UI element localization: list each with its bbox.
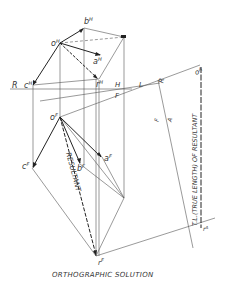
label-rF: rF bbox=[98, 257, 104, 267]
label-true-length: T.L.(TRUE LENGTH) OF RESULTANT bbox=[191, 113, 199, 226]
label-oH: oH bbox=[51, 38, 60, 48]
label-oF: oF bbox=[50, 112, 58, 122]
label-aH: aH bbox=[93, 56, 102, 66]
label-L: L bbox=[139, 81, 143, 89]
label-bF: bF bbox=[77, 163, 85, 173]
label-R-aux: R bbox=[157, 77, 166, 84]
label-rH: rH bbox=[96, 79, 103, 89]
label-bH: bH bbox=[84, 16, 93, 26]
label-F: F bbox=[115, 92, 120, 100]
label-H: H bbox=[115, 81, 121, 89]
label-oA: oA bbox=[193, 65, 204, 76]
label-F-aux: F bbox=[153, 117, 161, 122]
orthographic-drawing: bH oH aH rH cH R H F L R oA F A oF cF bF… bbox=[0, 0, 227, 284]
label-aF: aF bbox=[104, 153, 112, 163]
label-cF: cF bbox=[22, 161, 29, 171]
label-rA: rA bbox=[203, 225, 208, 232]
label-cH: cH bbox=[24, 80, 32, 90]
label-R-left: R bbox=[12, 81, 18, 90]
projection-lines bbox=[10, 28, 215, 256]
caption: ORTHOGRAPHIC SOLUTION bbox=[52, 271, 154, 279]
vectors bbox=[33, 29, 201, 255]
